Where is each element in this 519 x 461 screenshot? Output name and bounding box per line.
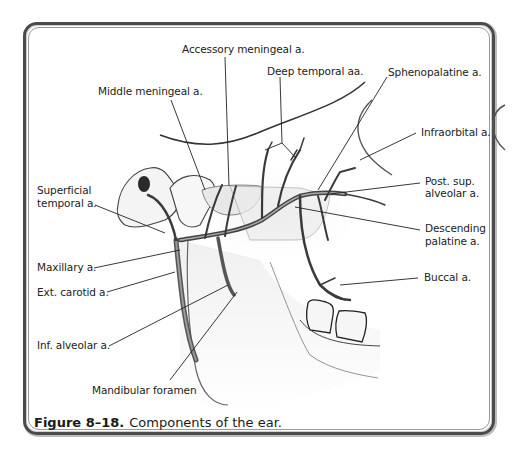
label-accessory-meningeal: Accessory meningeal a. <box>182 44 305 55</box>
label-mandibular-foramen: Mandibular foramen <box>92 385 196 396</box>
label-descending-palatine-line1: Descending <box>425 223 486 234</box>
figure-caption-text: Components of the ear. <box>129 415 282 430</box>
label-middle-meningeal: Middle meningeal a. <box>98 86 203 97</box>
label-buccal: Buccal a. <box>424 272 471 283</box>
label-superficial-temporal-line2: temporal a. <box>37 198 97 209</box>
label-infraorbital: Infraorbital a. <box>421 127 491 138</box>
label-ext-carotid: Ext. carotid a. <box>37 287 109 298</box>
label-maxillary: Maxillary a. <box>37 262 96 273</box>
label-post-sup-alveolar-line1: Post. sup. <box>425 176 475 187</box>
label-superficial-temporal-line1: Superficial <box>37 185 91 196</box>
figure-number: Figure 8–18. <box>34 415 124 430</box>
label-deep-temporal: Deep temporal aa. <box>267 66 363 77</box>
label-inf-alveolar: Inf. alveolar a. <box>37 340 110 351</box>
figure-caption: Figure 8–18.Components of the ear. <box>34 415 282 430</box>
label-descending-palatine-line2: palatine a. <box>425 236 480 247</box>
label-sphenopalatine: Sphenopalatine a. <box>388 67 482 78</box>
label-post-sup-alveolar-line2: alveolar a. <box>425 188 479 199</box>
